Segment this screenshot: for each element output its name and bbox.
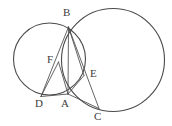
point-label-E: E <box>90 68 97 79</box>
right-circle <box>62 9 165 112</box>
geometry-canvas <box>0 0 172 126</box>
segment-D-F-extension <box>41 62 59 97</box>
segment-A-E <box>68 76 84 95</box>
point-label-A: A <box>61 98 69 109</box>
geometry-figure: B F E D A C <box>0 0 172 126</box>
point-label-F: F <box>47 54 53 65</box>
segment-F-A <box>59 62 69 94</box>
point-label-D: D <box>35 98 43 109</box>
point-label-B: B <box>63 7 70 18</box>
segment-B-D <box>41 27 69 97</box>
point-label-C: C <box>94 111 101 122</box>
segment-B-A <box>68 27 69 94</box>
